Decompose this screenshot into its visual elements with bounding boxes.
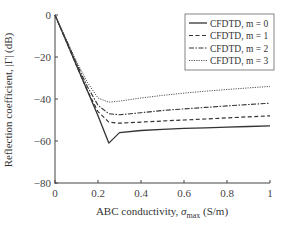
- y-tick-label: −40: [34, 93, 52, 105]
- reflection-chart: 00.20.40.60.810−20−40−60−80 Reflection c…: [0, 0, 285, 228]
- x-tick-label: 0.4: [134, 187, 148, 199]
- legend-label: CFDTD, m = 1: [210, 31, 268, 41]
- y-axis-label: Reflection coefficient, |Γ| (dB): [2, 32, 15, 167]
- legend-label: CFDTD, m = 2: [210, 44, 268, 54]
- y-tick-label: −80: [34, 177, 52, 189]
- x-axis-label: ABC conductivity, σmax (S/m): [96, 205, 229, 220]
- legend-label: CFDTD, m = 0: [210, 19, 268, 29]
- y-tick-label: −20: [34, 51, 52, 63]
- legend-label: CFDTD, m = 3: [210, 56, 268, 66]
- legend: CFDTD, m = 0CFDTD, m = 1CFDTD, m = 2CFDT…: [185, 14, 274, 70]
- y-tick-label: −60: [34, 135, 52, 147]
- y-tick-label: 0: [46, 9, 52, 21]
- x-tick-label: 0: [52, 187, 58, 199]
- x-tick-label: 0.6: [177, 187, 191, 199]
- x-tick-label: 0.8: [220, 187, 234, 199]
- x-tick-label: 0.2: [91, 187, 105, 199]
- x-tick-label: 1: [267, 187, 273, 199]
